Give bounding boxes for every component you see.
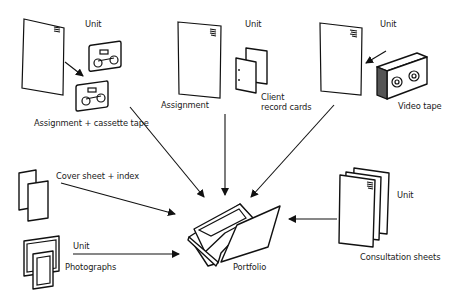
portfolio-diagram: Unit Assignment + cassette tape Unit Ass…	[0, 0, 455, 308]
video-tape-label: Video tape	[398, 101, 442, 111]
unit-label-cassette: Unit	[85, 19, 102, 29]
unit-label-assignment: Unit	[245, 19, 262, 29]
assignment-label: Assignment	[161, 100, 209, 110]
cover-sheets-icon	[19, 170, 48, 221]
consultation-sheets-label: Consultation sheets	[360, 252, 440, 262]
unit-label-video: Unit	[380, 19, 397, 29]
unit-sheet-icon	[22, 19, 64, 95]
cassette-tape-icon	[89, 41, 121, 71]
photographs-label: Photographs	[65, 262, 116, 272]
arrow-video-to-portfolio	[251, 105, 334, 197]
record-cards-label: record cards	[261, 102, 311, 112]
assignment-cassette-label: Assignment + cassette tape	[34, 118, 149, 128]
video-tape-icon	[377, 53, 427, 99]
unit-label-consultation: Unit	[397, 190, 414, 200]
consultation-sheets-icon	[339, 168, 389, 247]
record-cards-icon	[236, 48, 267, 93]
unit-label-photos: Unit	[73, 241, 90, 251]
portfolio-box-icon	[188, 204, 280, 266]
client-label: Client	[261, 92, 284, 102]
video-to-unit-arrow	[366, 51, 386, 63]
portfolio-label: Portfolio	[233, 262, 266, 272]
photographs-icon	[24, 236, 59, 289]
cassette-tape-icon	[76, 81, 108, 111]
unit-sheet-icon	[178, 22, 221, 98]
unit-sheet-icon	[320, 23, 362, 95]
cassette-to-unit-arrow	[65, 62, 83, 76]
cover-sheet-label: Cover sheet + index	[56, 171, 139, 181]
arrow-cover-to-portfolio	[61, 183, 175, 214]
